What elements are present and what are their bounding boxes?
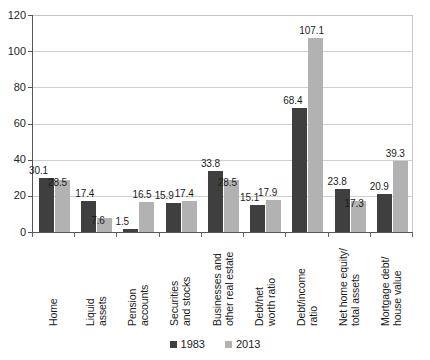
x-axis-label: Debt/income ratio (296, 236, 319, 326)
value-label-1983: 23.8 (328, 177, 347, 187)
bar-1983 (292, 108, 307, 232)
x-tick-mark-7 (328, 232, 329, 237)
bar-1983 (250, 205, 265, 232)
y-tick-label-20: 20 (0, 190, 26, 201)
x-axis-label: Businesses and other real estate (212, 236, 235, 326)
bar-group (285, 15, 327, 232)
x-axis-line (32, 232, 413, 233)
value-label-2013: 28.5 (48, 178, 67, 188)
legend-label: 2013 (236, 338, 260, 350)
value-label-1983: 15.9 (155, 191, 174, 201)
value-label-1983: 17.4 (75, 189, 94, 199)
value-label-2013: 17.3 (345, 199, 364, 209)
bar-group (32, 15, 74, 232)
value-label-2013: 17.4 (175, 189, 194, 199)
x-tick-mark-8 (370, 232, 371, 237)
value-label-2013: 107.1 (299, 26, 324, 36)
value-label-1983: 30.1 (29, 166, 48, 176)
value-label-2013: 16.5 (132, 190, 151, 200)
legend-swatch-icon (225, 341, 232, 348)
y-tick-label-60: 60 (0, 118, 26, 129)
bar-1983 (166, 203, 181, 232)
bar-2013 (266, 200, 281, 232)
legend-swatch-icon (170, 341, 177, 348)
value-label-1983: 15.1 (240, 193, 259, 203)
chart-legend: 19832013 (0, 338, 430, 350)
bar-1983 (123, 229, 138, 232)
value-label-2013: 17.9 (258, 188, 277, 198)
x-tick-mark-1 (74, 232, 75, 237)
x-axis-label: Debt/net worth ratio (254, 236, 277, 326)
value-label-1983: 20.9 (370, 182, 389, 192)
x-tick-mark-2 (116, 232, 117, 237)
x-axis-label: Pension accounts (127, 236, 150, 326)
legend-item-1983[interactable]: 1983 (170, 338, 205, 350)
value-label-1983: 1.5 (115, 217, 129, 227)
y-tick-label-100: 100 (0, 46, 26, 57)
x-axis-label: Securities and stocks (169, 236, 192, 326)
y-tick-label-80: 80 (0, 82, 26, 93)
bar-1983 (377, 194, 392, 232)
bar-group (74, 15, 116, 232)
bar-2013 (393, 161, 408, 232)
x-tick-mark-9 (412, 232, 413, 237)
bar-2013 (139, 202, 154, 232)
x-tick-mark-5 (243, 232, 244, 237)
x-axis-label: Liquid assets (85, 236, 108, 326)
legend-label: 1983 (181, 338, 205, 350)
value-label-2013: 39.3 (386, 149, 405, 159)
value-label-2013: 7.6 (91, 216, 105, 226)
plot-right-border (412, 15, 413, 233)
x-tick-mark-4 (201, 232, 202, 237)
y-tick-label-40: 40 (0, 154, 26, 165)
y-tick-label-120: 120 (0, 10, 26, 21)
bar-group (370, 15, 412, 232)
x-axis-label: Net home equity/ total assets (338, 236, 361, 326)
value-label-2013: 28.5 (218, 178, 237, 188)
bar-2013 (182, 201, 197, 232)
legend-item-2013[interactable]: 2013 (225, 338, 260, 350)
x-tick-mark-3 (159, 232, 160, 237)
value-label-1983: 68.4 (283, 96, 302, 106)
bar-2013 (308, 38, 323, 232)
x-tick-mark-6 (285, 232, 286, 237)
y-tick-label-0: 0 (0, 227, 26, 238)
x-axis-label: Mortgage debt/ house value (380, 236, 403, 326)
bar-chart: 120100806040200 30.128.517.47.61.516.515… (0, 0, 430, 360)
bar-group (201, 15, 243, 232)
x-tick-mark-0 (32, 232, 33, 237)
x-axis-label: Home (48, 236, 60, 326)
value-label-1983: 33.8 (201, 159, 220, 169)
bar-1983 (335, 189, 350, 232)
